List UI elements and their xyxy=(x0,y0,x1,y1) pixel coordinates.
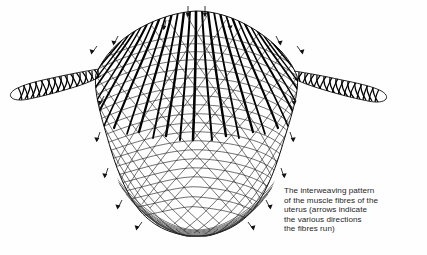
arrow-left-flank-e xyxy=(135,222,142,230)
arrow-right-flank-c xyxy=(281,168,287,178)
right-horn xyxy=(293,71,387,104)
arrow-left-flank-b xyxy=(94,132,100,142)
arrow-upper-right-a xyxy=(276,36,283,45)
figure-caption: The interweaving pattern of the muscle f… xyxy=(284,186,416,234)
bold-radiating-fibres xyxy=(68,10,324,140)
arrow-left-flank-d xyxy=(115,200,122,209)
arrow-right-flank-b xyxy=(290,132,296,142)
arrow-right-flank-e xyxy=(248,222,255,230)
left-horn-fibres xyxy=(16,69,102,102)
left-horn xyxy=(10,69,102,102)
right-horn-fibres xyxy=(295,71,381,104)
arrow-left-flank-c xyxy=(102,168,108,178)
arrow-right-flank-d xyxy=(266,200,273,209)
arrow-upper-left-b xyxy=(90,46,97,54)
arrow-upper-right-b xyxy=(297,46,304,54)
